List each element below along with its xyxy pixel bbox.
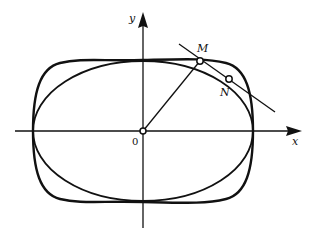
- origin-marker: [140, 128, 146, 134]
- radius-line-om: [143, 61, 200, 131]
- point-m-label: M: [196, 42, 209, 55]
- point-n-marker: [226, 76, 232, 82]
- origin-label: 0: [132, 136, 138, 147]
- y-axis-arrow-icon: [138, 12, 148, 28]
- point-m-marker: [197, 58, 203, 64]
- x-axis-label: x: [292, 135, 299, 148]
- diagram-canvas: y x 0 M N: [0, 0, 318, 234]
- point-n-label: N: [219, 86, 230, 99]
- y-axis-label: y: [128, 12, 136, 25]
